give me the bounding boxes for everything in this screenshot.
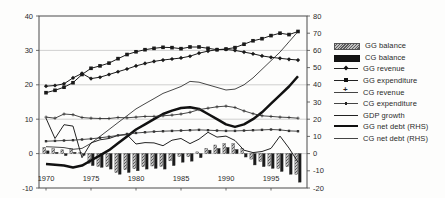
cg-expenditure-marker-icon	[270, 128, 272, 130]
gg-revenue-marker-icon	[161, 58, 165, 62]
cg-expenditure-marker-icon	[288, 130, 290, 132]
gg-balance-bar	[133, 154, 136, 169]
right-axis-label: 60	[313, 46, 321, 55]
gg-expenditure-marker-icon	[197, 45, 201, 49]
cg-revenue-marker-icon	[206, 107, 209, 110]
cg-balance-bar	[73, 152, 76, 153]
cg-revenue-marker-icon	[44, 116, 47, 119]
cg-balance-bar	[64, 154, 67, 156]
gg-expenditure-marker-icon	[143, 48, 147, 52]
legend-item-gg-expenditure: GG expenditure	[334, 75, 444, 87]
cg-balance-bar	[154, 154, 157, 169]
x-axis-label: 1990	[218, 174, 235, 183]
cg-balance-bar	[289, 154, 292, 175]
legend-label: GG net debt (RHS)	[363, 122, 428, 131]
legend-item-gdp-growth: GDP growth	[334, 110, 444, 122]
gg-revenue-marker-icon	[296, 58, 300, 62]
gg-revenue-marker-icon	[53, 83, 57, 87]
cg-balance-bar	[118, 154, 121, 175]
cg-revenue-marker-icon	[143, 115, 146, 118]
cg-expenditure-marker-icon	[261, 129, 263, 131]
gg-expenditure-marker-icon	[53, 89, 57, 93]
left-axis-label: 0	[29, 149, 33, 158]
gg-expenditure-marker-icon	[125, 53, 129, 57]
right-axis-label: -10	[313, 166, 324, 175]
cg-revenue-marker-icon	[233, 106, 236, 109]
gg-net-debt-line-swatch-icon	[334, 122, 358, 131]
gg-revenue-marker-icon	[251, 52, 255, 56]
cg-revenue-marker-icon	[71, 113, 74, 116]
cg-expenditure-marker-icon	[117, 134, 119, 136]
gg-balance-bar	[259, 154, 262, 162]
left-axis-label: 20	[25, 80, 33, 89]
cg-expenditure-marker-icon	[72, 139, 74, 141]
x-axis-label: 1995	[263, 174, 280, 183]
gg-revenue-marker-icon	[152, 59, 156, 63]
gg-expenditure-marker-icon	[269, 34, 273, 38]
cg-expenditure-marker-icon	[162, 130, 164, 132]
cg-revenue-marker-icon	[170, 113, 173, 116]
right-axis-label: -20	[313, 184, 324, 193]
gg-balance-bar	[268, 154, 271, 166]
cg-revenue-marker-icon	[188, 111, 191, 114]
gg-balance-bar-swatch-icon	[334, 43, 360, 50]
gg-revenue-marker-icon	[287, 57, 291, 61]
fiscal-developments-figure: 403020100-1080706050403020100-10-2019701…	[0, 0, 445, 198]
right-axis-label: 0	[313, 149, 317, 158]
legend-label: GG revenue	[363, 64, 405, 73]
x-axis-label: 1980	[128, 174, 145, 183]
gg-balance-bar	[115, 154, 118, 173]
legend-item-gg-revenue: GG revenue	[334, 63, 444, 75]
gg-expenditure-marker-icon	[296, 30, 300, 34]
legend-label: CG revenue	[363, 88, 404, 97]
cg-revenue-marker-icon	[80, 116, 83, 119]
gg-balance-bar	[196, 152, 199, 154]
cg-revenue-marker-icon	[278, 116, 281, 119]
cg-revenue-marker-icon	[242, 109, 245, 112]
cg-revenue-marker-icon	[62, 112, 65, 115]
gg-balance-bar	[178, 154, 181, 157]
left-axis-label: -10	[22, 184, 33, 193]
gg-expenditure-marker-icon	[107, 61, 111, 65]
gg-revenue-marker-icon	[197, 51, 201, 55]
left-axis-label: 30	[25, 46, 33, 55]
gg-balance-bar	[295, 154, 298, 175]
gg-revenue-marker-icon	[98, 75, 102, 79]
cg-balance-bar	[109, 154, 112, 169]
gg-balance-bar	[106, 154, 109, 167]
gg-balance-bar	[232, 144, 235, 154]
cg-expenditure-marker-icon	[279, 129, 281, 131]
cg-balance-bar	[163, 154, 166, 169]
legend-label: CG expenditure	[363, 99, 417, 108]
gg-expenditure-marker-icon	[287, 33, 291, 37]
legend-label: GG balance	[365, 41, 406, 50]
cg-expenditure-marker-icon	[126, 133, 128, 135]
gg-revenue-marker-icon	[260, 54, 264, 58]
right-axis-label: 40	[313, 80, 321, 89]
gg-revenue-marker-icon	[134, 64, 138, 68]
right-axis-label: 20	[313, 115, 321, 124]
right-axis-label: 50	[313, 63, 321, 72]
gg-balance-bar	[43, 147, 46, 153]
cg-expenditure-marker-icon	[243, 129, 245, 131]
gg-balance-bar	[151, 154, 154, 166]
cg-expenditure-marker-icon	[153, 130, 155, 132]
cg-expenditure-marker-icon	[198, 129, 200, 131]
gg-balance-bar	[214, 145, 217, 154]
gg-revenue-line	[46, 49, 298, 86]
gg-expenditure-marker-icon	[260, 37, 264, 41]
legend-item-cg-expenditure: CG expenditure	[334, 98, 444, 110]
gg-revenue-marker-icon	[89, 77, 93, 81]
cg-expenditure-line-swatch-icon	[334, 99, 358, 108]
cg-balance-bar	[208, 150, 211, 153]
cg-balance-bar	[226, 147, 229, 153]
gg-expenditure-marker-icon	[152, 47, 156, 51]
cg-revenue-marker-icon	[179, 112, 182, 115]
cg-revenue-marker-icon	[251, 112, 254, 115]
cg-expenditure-marker-icon	[90, 138, 92, 140]
legend-label: GDP growth	[363, 111, 405, 120]
legend-item-gg-balance: GG balance	[334, 40, 444, 52]
cg-balance-bar	[262, 154, 265, 167]
cg-expenditure-marker-icon	[108, 136, 110, 138]
cg-balance-bar	[235, 149, 238, 153]
